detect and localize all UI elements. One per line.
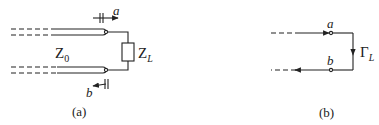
top-line-dashed [11,29,51,35]
caption-b: (b) [319,105,334,120]
bottom-line-dashed [11,67,57,73]
transmission-line-diagram: Z0 ZL a b (a) a b ΓL (b) [0,0,379,125]
label-node-b: b [327,53,334,68]
label-node-a: a [327,16,334,31]
top-line-solid [51,29,106,35]
load-wire-top [108,32,128,43]
node-a [329,31,332,34]
caption-a: (a) [72,104,86,119]
label-a-wave: a [113,3,120,18]
label-zl: ZL [138,45,153,64]
panel-b-signal-flow [271,31,353,71]
load-impedance-box [122,43,134,61]
panel-a-circuit [11,13,134,89]
label-z0: Z0 [55,45,69,64]
bottom-line-solid [57,67,106,73]
label-b-wave: b [86,85,93,100]
label-gamma-l: ΓL [360,44,375,63]
terminal-top [104,30,107,33]
load-wire-bottom [108,61,128,70]
node-b [329,68,332,71]
reflected-wave-arrow [93,84,106,86]
terminal-bottom [104,68,107,71]
